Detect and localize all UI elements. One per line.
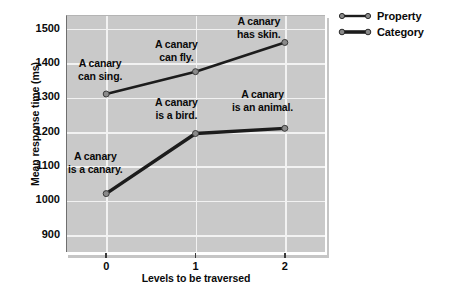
annotation-line: is a bird. <box>155 109 198 122</box>
annotation-line: has skin. <box>237 28 281 41</box>
x-axis-tick-mark <box>195 253 197 258</box>
annotation-line: A canary <box>155 38 198 51</box>
legend-swatch-category <box>338 25 372 39</box>
legend-item-property[interactable]: Property <box>338 8 450 24</box>
annotation-line: A canary <box>78 57 122 70</box>
legend-label-property: Property <box>377 10 421 22</box>
y-axis-tick-label: 1400 <box>10 56 60 68</box>
annotation-line: can sing. <box>78 70 122 83</box>
series-line-category <box>106 128 285 193</box>
y-axis-tick-label: 1200 <box>10 125 60 137</box>
legend-item-category[interactable]: Category <box>338 24 450 40</box>
x-axis-tick-mark <box>105 253 107 258</box>
annotation-line: A canary <box>232 88 293 101</box>
x-axis-tick-label: 2 <box>270 260 300 272</box>
data-point-annotation: A canaryis an animal. <box>232 88 293 113</box>
y-axis-tick-label: 1300 <box>10 90 60 102</box>
data-point-annotation: A canarycan fly. <box>155 38 198 63</box>
x-axis-title: Levels to be traversed <box>66 272 326 284</box>
x-axis-tick-mark <box>284 253 286 258</box>
legend: Property Category <box>338 8 450 40</box>
data-point-annotation: A canaryhas skin. <box>237 15 281 40</box>
x-axis-tick-label: 1 <box>181 260 211 272</box>
data-point-annotation: A canaryis a canary. <box>68 150 123 175</box>
annotation-line: A canary <box>237 15 281 28</box>
annotation-line: is an animal. <box>232 101 293 114</box>
y-axis-tick-label: 900 <box>10 228 60 240</box>
chart-container: Mean response time (ms) 9001000110012001… <box>0 0 455 291</box>
data-point-marker[interactable] <box>103 191 109 197</box>
annotation-line: A canary <box>68 150 123 163</box>
data-point-marker[interactable] <box>193 69 199 75</box>
data-point-marker[interactable] <box>282 125 288 131</box>
x-axis-tick-label: 0 <box>91 260 121 272</box>
annotation-line: A canary <box>155 96 198 109</box>
data-point-annotation: A canaryis a bird. <box>155 96 198 121</box>
data-point-marker[interactable] <box>103 91 109 97</box>
annotation-line: can fly. <box>155 51 198 64</box>
y-axis-tick-label: 1100 <box>10 159 60 171</box>
legend-swatch-property <box>338 9 372 23</box>
data-point-marker[interactable] <box>282 39 288 45</box>
y-axis-tick-label: 1000 <box>10 193 60 205</box>
data-point-annotation: A canarycan sing. <box>78 57 122 82</box>
data-point-marker[interactable] <box>193 131 199 137</box>
legend-label-category: Category <box>377 26 424 38</box>
y-axis-tick-label: 1500 <box>10 22 60 34</box>
annotation-line: is a canary. <box>68 163 123 176</box>
